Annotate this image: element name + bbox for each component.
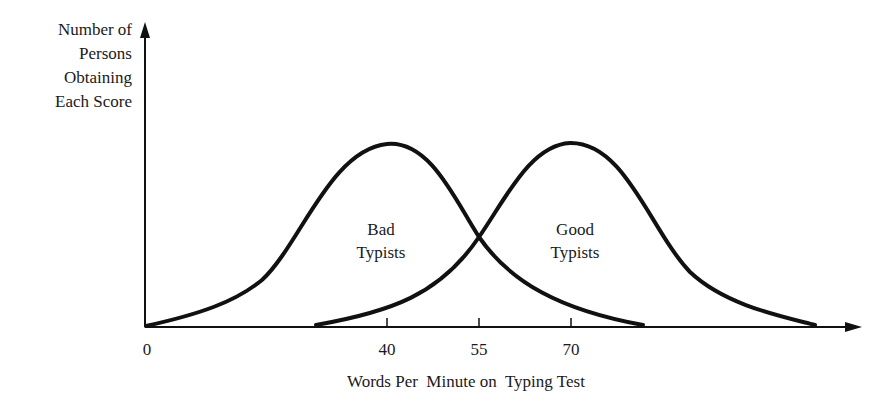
y-axis-arrow-icon — [140, 22, 150, 38]
x-tick-label-40: 40 — [379, 341, 396, 358]
x-tick-label-70: 70 — [563, 341, 580, 358]
x-tick-label-55: 55 — [471, 341, 488, 358]
y-axis-label-line-3: Obtaining — [64, 69, 132, 86]
good-typists-label-line-1: Good — [551, 218, 600, 241]
y-axis-label-line-4: Each Score — [55, 93, 132, 110]
good-typists-label: Good Typists — [551, 218, 600, 264]
bad-typists-label-line-1: Bad — [357, 218, 406, 241]
bad-typists-label-line-2: Typists — [357, 241, 406, 264]
bad-typists-label: Bad Typists — [357, 218, 406, 264]
x-axis-arrow-icon — [845, 322, 862, 332]
chart-canvas — [0, 0, 888, 403]
y-axis-label-line-2: Persons — [79, 45, 132, 62]
chart: Number of Persons Obtaining Each Score 0… — [0, 0, 888, 403]
x-tick-label-0: 0 — [143, 341, 152, 358]
x-axis-label: Words Per Minute on Typing Test — [347, 373, 585, 390]
good-typists-label-line-2: Typists — [551, 241, 600, 264]
y-axis-label-line-1: Number of — [58, 21, 132, 38]
